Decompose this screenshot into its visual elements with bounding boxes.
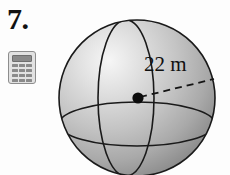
sphere-diagram (0, 0, 230, 175)
sphere-center-dot (132, 92, 143, 103)
problem-figure-panel: 7. (0, 0, 230, 175)
radius-dimension-label: 22 m (144, 54, 187, 75)
